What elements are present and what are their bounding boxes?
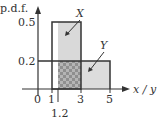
x-tick-5: 5 (106, 93, 113, 106)
x-tick-1-2: 1.2 (51, 107, 69, 120)
y-tick-0-5: 0.5 (18, 16, 36, 29)
y-region (81, 61, 110, 89)
x-tick-0: 0 (34, 93, 41, 106)
series-x-label: X (75, 7, 85, 20)
x-tick-3: 3 (77, 93, 84, 106)
x-tick-1: 1 (48, 93, 55, 106)
x-axis-label: x / y (133, 83, 157, 96)
overlap-region (58, 61, 81, 89)
y-tick-0-2: 0.2 (18, 55, 36, 68)
x-arrow-icon (122, 86, 130, 92)
y-arrow-icon (35, 6, 41, 14)
pdf-diagram: p.d.f. 0.5 0.2 0 1 3 5 1.2 x / y X Y (0, 0, 158, 122)
series-y-label: Y (100, 39, 109, 52)
y-axis-label: p.d.f. (0, 2, 28, 15)
